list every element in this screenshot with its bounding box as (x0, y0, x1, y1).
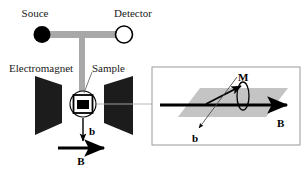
sample-assembly (70, 91, 96, 117)
detector-marker (116, 26, 133, 43)
detector-label: Detector (114, 7, 152, 19)
rf-field-label-right: b (192, 132, 198, 144)
magnetization-label: M (238, 71, 249, 83)
rf-field-label-left: b (89, 125, 95, 137)
static-field-label-right: B (277, 117, 285, 129)
electromagnet-pole-right (104, 76, 133, 135)
electromagnet-pole-left (35, 76, 62, 135)
source-label: Souce (22, 7, 49, 19)
sample-leader-line (84, 72, 92, 93)
static-field-label-left: B (77, 155, 85, 167)
source-marker (34, 26, 51, 43)
sample-label: Sample (92, 62, 125, 74)
figure-canvas: Souce Detector Electromagnet Sample b B … (0, 0, 305, 171)
electromagnet-label: Electromagnet (9, 62, 73, 74)
diagram-svg: Souce Detector Electromagnet Sample b B … (0, 0, 305, 171)
sample-inner-square (77, 100, 89, 109)
